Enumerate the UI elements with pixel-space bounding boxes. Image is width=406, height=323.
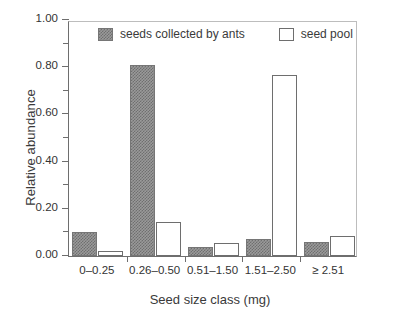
x-axis-tick-label: 0–0.25 bbox=[68, 264, 126, 276]
bar-ants bbox=[304, 242, 329, 256]
legend-item: seeds collected by ants bbox=[98, 27, 245, 41]
y-axis-tick bbox=[63, 90, 69, 91]
bar-ants bbox=[72, 232, 97, 256]
x-axis-tick-label: ≥ 2.51 bbox=[299, 264, 357, 276]
legend-item: seed pool bbox=[279, 27, 353, 41]
bar-pool bbox=[330, 236, 355, 256]
chart-legend: seeds collected by antsseed pool bbox=[98, 27, 353, 41]
y-axis-tick bbox=[63, 137, 69, 138]
bar-chart-figure: Relative abundance Seed size class (mg) … bbox=[0, 0, 406, 323]
legend-swatch-pool bbox=[279, 28, 294, 41]
bar-pool bbox=[98, 251, 123, 256]
y-axis-tick-label: 1.00 bbox=[36, 12, 58, 24]
bar-ants bbox=[130, 65, 155, 256]
y-axis-tick: 0.40 bbox=[62, 161, 69, 162]
y-axis-tick: 0.00 bbox=[62, 255, 69, 256]
legend-label: seed pool bbox=[301, 27, 353, 41]
y-axis-tick: 0.20 bbox=[62, 208, 69, 209]
x-axis-tick bbox=[127, 256, 128, 262]
x-axis-tick-label: 1.51–2.50 bbox=[241, 264, 299, 276]
x-axis-title: Seed size class (mg) bbox=[60, 292, 360, 307]
y-axis-tick-label: 0.40 bbox=[36, 154, 58, 166]
y-axis-tick bbox=[63, 231, 69, 232]
y-axis-tick: 0.60 bbox=[62, 113, 69, 114]
plot-area: 0.000.200.400.600.801.00 bbox=[68, 21, 357, 257]
bar-pool bbox=[272, 75, 297, 256]
bar-pool bbox=[214, 243, 239, 256]
y-axis-tick: 1.00 bbox=[62, 19, 69, 20]
x-axis-tick-label: 0.51–1.50 bbox=[184, 264, 242, 276]
y-axis-title: Relative abundance bbox=[23, 48, 38, 248]
y-axis-tick-label: 0.20 bbox=[36, 201, 58, 213]
x-axis-tick bbox=[242, 256, 243, 262]
y-axis-tick bbox=[63, 184, 69, 185]
bar-ants bbox=[246, 239, 271, 256]
legend-label: seeds collected by ants bbox=[120, 27, 245, 41]
bar-ants bbox=[188, 247, 213, 256]
y-axis-tick bbox=[63, 43, 69, 44]
x-axis-tick-label: 0.26–0.50 bbox=[126, 264, 184, 276]
y-axis-tick-label: 0.80 bbox=[36, 59, 58, 71]
legend-swatch-ants bbox=[98, 28, 113, 41]
bar-pool bbox=[156, 222, 181, 256]
x-axis-tick bbox=[185, 256, 186, 262]
y-axis-tick-label: 0.00 bbox=[36, 248, 58, 260]
y-axis-tick: 0.80 bbox=[62, 66, 69, 67]
x-axis-tick bbox=[300, 256, 301, 262]
y-axis-tick-label: 0.60 bbox=[36, 106, 58, 118]
